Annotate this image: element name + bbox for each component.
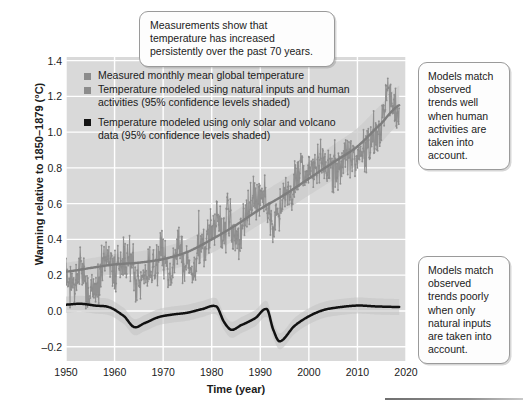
x-axis-title: Time (year) [66,383,406,395]
callout-measurements: Measurements show that temperature has i… [139,11,335,67]
callout-models-match-poorly: Models match observed trends poorly when… [418,256,510,364]
y-axis-title: Warming relative to 1850–1879 (°C) [33,49,45,299]
legend-label: Measured monthly mean global temperature [98,69,304,82]
legend-swatch-icon [84,73,91,80]
legend-item-model-natural-only: Temperature modeled using only solar and… [84,116,354,142]
legend-item-model-human-natural: Temperature modeled using natural inputs… [84,83,354,109]
x-tick-label: 1960 [92,366,138,378]
x-tick-label: 1950 [43,366,89,378]
y-tick-label: –0.2 [4,342,62,352]
callout-models-match-well: Models match observed trends well when h… [418,62,510,170]
legend-label: Temperature modeled using only solar and… [98,116,354,142]
x-tick-label: 2020 [383,366,429,378]
footer-rule [385,398,523,400]
legend-swatch-icon [84,119,91,126]
x-tick-label: 2000 [286,366,332,378]
legend-label: Temperature modeled using natural inputs… [98,83,354,109]
y-axis-ticks: –0.20.00.20.40.60.81.01.21.4 [0,0,62,415]
chart-legend: Measured monthly mean global temperature… [84,69,354,143]
confidence-band-natural-only [66,296,399,350]
temperature-chart-figure: –0.20.00.20.40.60.81.01.21.4 Warming rel… [0,0,523,415]
x-tick-label: 1970 [140,366,186,378]
x-tick-label: 1990 [237,366,283,378]
x-tick-label: 1980 [189,366,235,378]
x-tick-label: 2010 [334,366,380,378]
legend-item-measured: Measured monthly mean global temperature [84,69,354,82]
y-tick-label: 0.0 [4,306,62,316]
legend-swatch-icon [84,87,91,94]
